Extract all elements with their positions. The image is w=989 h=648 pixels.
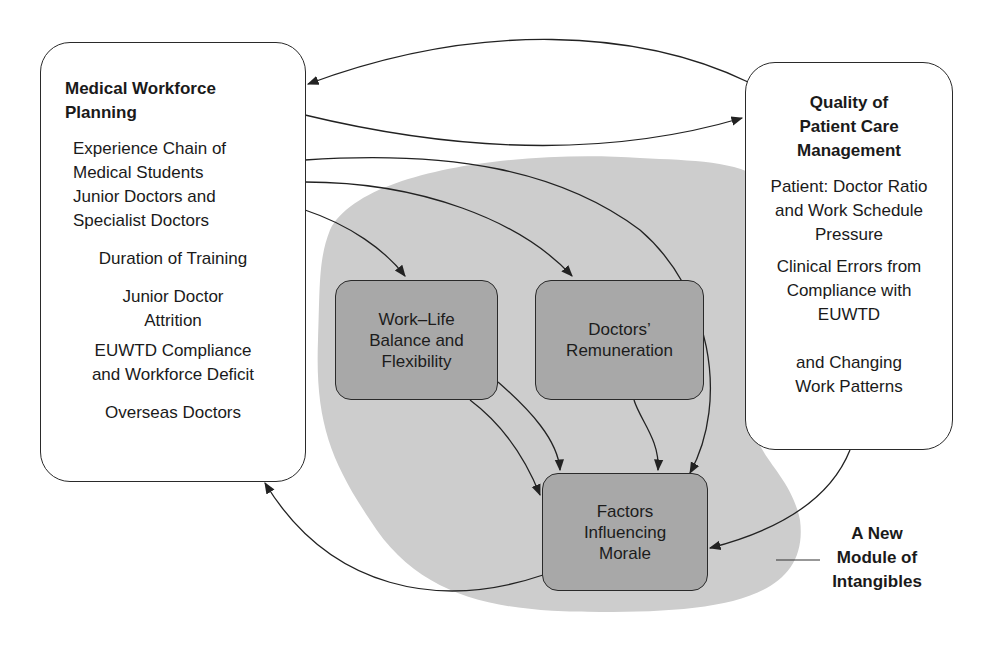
planning-item-euwtd: EUWTD Compliance and Workforce Deficit: [41, 339, 305, 387]
planning-item-duration: Duration of Training: [41, 247, 305, 271]
module-of-intangibles-label: A New Module of Intangibles: [822, 522, 932, 594]
quality-title: Quality of Patient Care Management: [746, 91, 952, 163]
planning-title: Medical Workforce Planning: [65, 77, 305, 125]
work-life-balance-node: Work–Life Balance and Flexibility: [335, 280, 498, 400]
planning-item-attrition: Junior Doctor Attrition: [41, 285, 305, 333]
quality-item-ratio: Patient: Doctor Ratio and Work Schedule …: [746, 175, 952, 247]
doctors-remuneration-node: Doctors’ Remuneration: [535, 280, 704, 400]
quality-item-changing-patterns: and Changing Work Patterns: [746, 351, 952, 399]
planning-item-overseas: Overseas Doctors: [41, 401, 305, 425]
factors-influencing-morale-node: Factors Influencing Morale: [542, 473, 708, 591]
planning-item-experience-chain: Experience Chain of Medical Students Jun…: [73, 137, 305, 233]
edge-quality-to-planning: [308, 39, 748, 84]
medical-workforce-planning-box: Medical Workforce Planning Experience Ch…: [40, 42, 306, 482]
edge-planning-to-quality: [305, 115, 742, 146]
factors-influencing-morale-label: Factors Influencing Morale: [584, 501, 666, 564]
quality-item-clinical-errors: Clinical Errors from Compliance with EUW…: [746, 255, 952, 327]
work-life-balance-label: Work–Life Balance and Flexibility: [369, 309, 464, 372]
quality-patient-care-box: Quality of Patient Care Management Patie…: [745, 62, 953, 450]
doctors-remuneration-label: Doctors’ Remuneration: [566, 319, 673, 361]
